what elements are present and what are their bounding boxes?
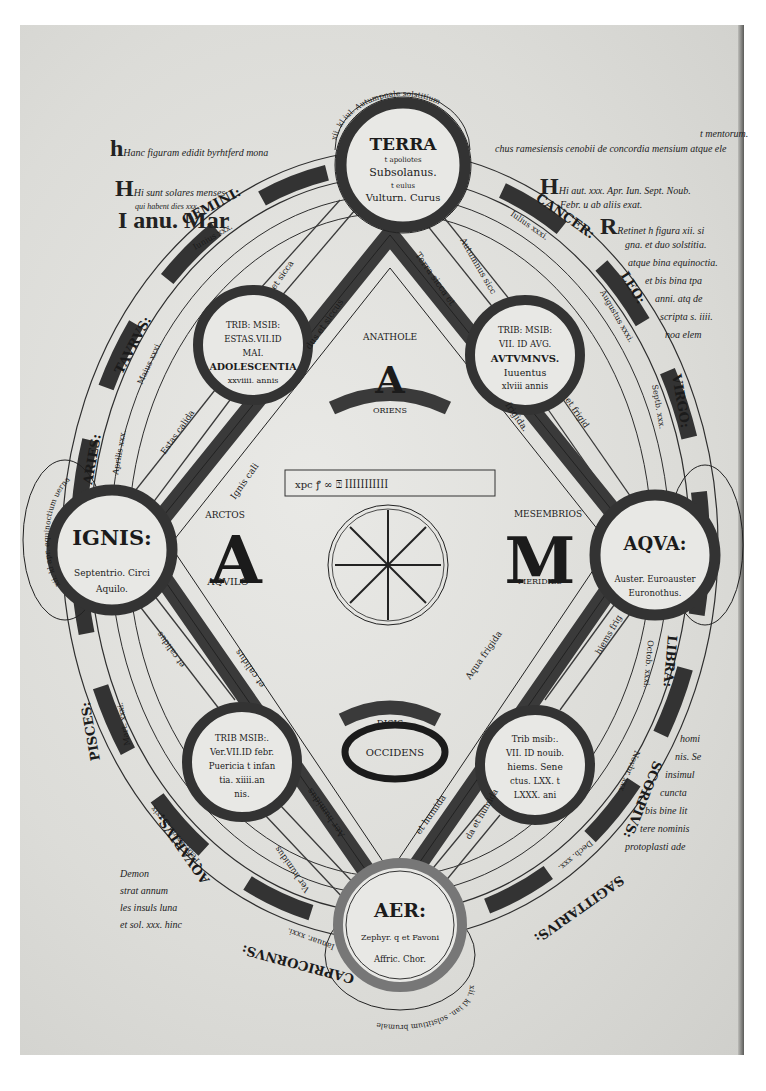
circle-estas: TRIB: MSIB: ESTAS.VII.ID MAI. ADOLESCENT… <box>198 290 308 400</box>
svg-text:Aqua frigida: Aqua frigida <box>463 629 505 682</box>
circle-ignis: IGNIS: Septentrio. Circi Aquilo. xii. kl… <box>0 0 172 620</box>
svg-text:TRIB MSIB:.: TRIB MSIB:. <box>215 733 269 743</box>
terra-label: TERRA <box>369 134 437 154</box>
svg-text:nis.: nis. <box>234 789 249 799</box>
svg-text:Subsolanus.: Subsolanus. <box>369 166 436 179</box>
svg-text:OCCIDENS: OCCIDENS <box>366 747 425 758</box>
svg-text:hiems. Sene: hiems. Sene <box>507 762 563 772</box>
svg-text:ctus. LXX. t: ctus. LXX. t <box>510 776 561 786</box>
svg-text:PISCES:: PISCES: <box>78 701 103 762</box>
adam-right: MESEMBRIOS M MERIDIES <box>505 509 583 598</box>
gloss-bottom-left: les insuls luna <box>120 899 177 916</box>
svg-text:Ver.VII.ID febr.: Ver.VII.ID febr. <box>209 747 274 757</box>
gloss-bottom-left: et sol. xxx. hinc <box>120 916 182 933</box>
svg-text:Euronothus.: Euronothus. <box>629 588 682 598</box>
gloss-left-months: I anu. Mar <box>118 212 229 233</box>
gloss-bottom-left: Demon <box>120 865 149 882</box>
svg-text:LIBRA:: LIBRA: <box>660 635 679 688</box>
svg-text:Septentrio. Circi: Septentrio. Circi <box>74 568 150 578</box>
svg-text:Ignis cali: Ignis cali <box>228 461 260 501</box>
svg-text:Auster. Euroauster: Auster. Euroauster <box>613 574 696 584</box>
svg-text:Decb. xxx.: Decb. xxx. <box>557 838 595 872</box>
svg-text:Vulturn. Curus: Vulturn. Curus <box>365 192 441 203</box>
gloss-bottom-right: nis. Se <box>675 748 701 765</box>
svg-text:ESTAS.VII.ID: ESTAS.VII.ID <box>224 334 282 344</box>
svg-text:IGNIS:: IGNIS: <box>72 525 152 550</box>
cipher-row: xpc ꝭ ∞ ⍰ ꟾꟾꟾꟾꟾꟾꟾꟾꟾꟾꟾ <box>285 470 495 496</box>
svg-text:AQVA:: AQVA: <box>623 533 687 554</box>
circle-terra: xii. kl iul. Autumpnale solstitium TERRA… <box>329 89 471 233</box>
gloss-bottom-right: tere nominis <box>640 820 689 837</box>
svg-text:ADOLESCENTIA: ADOLESCENTIA <box>208 361 297 372</box>
svg-text:et frigid: et frigid <box>563 395 591 430</box>
svg-text:MESEMBRIOS: MESEMBRIOS <box>514 509 582 519</box>
svg-text:Affric. Chor.: Affric. Chor. <box>373 954 426 964</box>
svg-text:t eulus: t eulus <box>391 182 415 190</box>
gloss-bottom-right: bis bine lit <box>645 802 687 819</box>
gloss-bottom-right: protoplasti ade <box>625 838 685 855</box>
svg-text:M: M <box>505 523 576 598</box>
byrhtferth-diagram: xpc ꝭ ∞ ⍰ ꟾꟾꟾꟾꟾꟾꟾꟾꟾꟾꟾ xii. kl iul. Autum… <box>0 0 766 1091</box>
svg-text:Autumnus sicc: Autumnus sicc <box>458 235 499 296</box>
circle-ver: TRIB MSIB:. Ver.VII.ID febr. Puericia t … <box>187 707 297 817</box>
svg-text:A: A <box>209 521 262 599</box>
svg-text:Octob. xxxi.: Octob. xxxi. <box>642 640 655 689</box>
adam-bottom: DISIS OCCIDENS <box>345 719 445 779</box>
gloss-right-line: noa elem <box>665 326 701 343</box>
svg-text:VII. ID nouib.: VII. ID nouib. <box>505 748 564 758</box>
svg-text:Estas calida: Estas calida <box>158 408 196 456</box>
svg-text:TRIB: MSIB:: TRIB: MSIB: <box>498 325 552 335</box>
svg-text:Puericia t infan: Puericia t infan <box>209 761 276 771</box>
numeral-wheel <box>328 505 448 625</box>
svg-text:et calidus: et calidus <box>155 630 187 670</box>
gloss-right-line: atque bina equinoctia. <box>628 254 718 271</box>
gloss-right-line: scripta s. iiii. <box>660 308 713 325</box>
svg-text:xii. kl ian. solstitium brumal: xii. kl ian. solstitium brumale <box>375 985 477 1032</box>
circle-aqua: AQVA: Auster. Euroauster Euronothus. <box>595 465 743 625</box>
gloss-bottom-left: strat annum <box>120 882 168 899</box>
svg-text:Ver humidus: Ver humidus <box>272 844 312 895</box>
svg-text:MAI.: MAI. <box>243 348 264 358</box>
svg-text:xxviiii. annis: xxviiii. annis <box>228 376 279 385</box>
circle-autumnus: TRIB: MSIB: VII. ID AVG. AVTVMNVS. Iuuen… <box>470 300 580 410</box>
svg-text:tia. xiiii.an: tia. xiiii.an <box>219 775 265 785</box>
svg-text:LXXX. ani: LXXX. ani <box>514 790 557 800</box>
svg-text:A: A <box>374 357 405 402</box>
svg-text:AQVILO: AQVILO <box>206 576 248 587</box>
gloss-bottom-right: homi <box>680 730 700 747</box>
svg-text:AVTVMNVS.: AVTVMNVS. <box>490 353 559 364</box>
svg-text:t apoliotes: t apoliotes <box>384 156 422 164</box>
svg-text:Iuuentus: Iuuentus <box>504 367 547 378</box>
gloss-top-right: chus ramesiensis cenobii de concordia me… <box>495 140 727 157</box>
svg-text:VII. ID AVG.: VII. ID AVG. <box>498 339 551 349</box>
gloss-right-line: gna. et duo solstitia. <box>625 236 706 253</box>
gloss-right-line: anni. atq de <box>655 290 703 307</box>
svg-text:ANATHOLE: ANATHOLE <box>362 332 417 342</box>
circle-aer: AER: Zephyr. q et Favoni Affric. Chor. x… <box>325 863 477 1032</box>
svg-text:MERIDIES: MERIDIES <box>518 577 562 586</box>
gloss-top-left: hHanc figuram edidit byrhtferd mona <box>110 140 268 161</box>
svg-text:Trib msib:.: Trib msib:. <box>512 734 559 744</box>
circle-hiems: Trib msib:. VII. ID nouib. hiems. Sene c… <box>480 710 590 820</box>
svg-text:AER:: AER: <box>373 899 426 921</box>
gloss-bottom-right: insimul <box>665 766 694 783</box>
svg-text:Aer humidus: Aer humidus <box>305 786 347 841</box>
gloss-top-right-sup: t mentorum. <box>700 125 748 142</box>
svg-text:Aprilis xxx.: Aprilis xxx. <box>111 429 128 476</box>
svg-text:ORIENS: ORIENS <box>373 406 407 415</box>
svg-text:xii. kl apr. equinoctium uerna: xii. kl apr. equinoctium uernale <box>0 0 72 588</box>
svg-text:TRIB: MSIB:: TRIB: MSIB: <box>226 320 280 330</box>
gloss-right-H2: Febr. u ab aliis exat. <box>560 196 642 213</box>
svg-text:xlviii annis: xlviii annis <box>502 381 548 391</box>
svg-text:Aquilo.: Aquilo. <box>95 584 128 594</box>
svg-text:Zephyr. q et Favoni: Zephyr. q et Favoni <box>361 933 440 942</box>
adam-left: ARCTOS A AQVILO <box>204 510 262 599</box>
svg-text:ARCTOS: ARCTOS <box>204 510 245 520</box>
svg-text:xpc ꝭ ∞ ⍰ ꟾꟾꟾꟾꟾꟾꟾꟾꟾꟾꟾ: xpc ꝭ ∞ ⍰ ꟾꟾꟾꟾꟾꟾꟾꟾꟾꟾꟾ <box>295 479 388 491</box>
gloss-bottom-right: cuncta <box>660 784 687 801</box>
gloss-right-line: et bis bina tpa <box>645 272 702 289</box>
